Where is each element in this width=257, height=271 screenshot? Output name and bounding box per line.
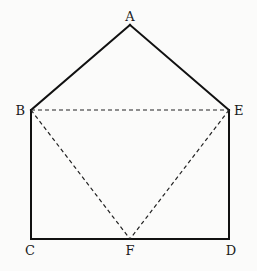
geometry-diagram: A B E C F D: [0, 0, 257, 271]
dashed-segment-BF: [31, 110, 130, 239]
label-B: B: [15, 103, 25, 118]
solid-edges: [31, 25, 229, 239]
label-D: D: [226, 243, 236, 258]
label-A: A: [124, 9, 135, 24]
label-E: E: [234, 103, 244, 118]
dashed-segment-EF: [130, 110, 229, 239]
edge-AE: [130, 25, 229, 110]
edge-BA: [31, 25, 130, 110]
dashed-edges: [31, 110, 229, 239]
label-F: F: [125, 243, 134, 258]
label-C: C: [25, 243, 35, 258]
